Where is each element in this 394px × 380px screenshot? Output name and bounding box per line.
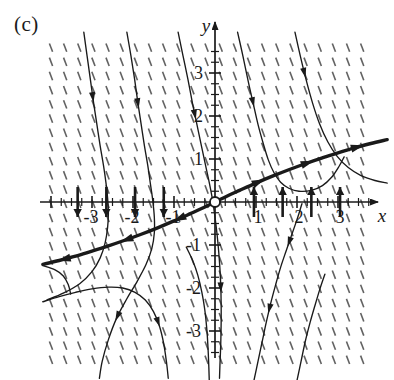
y-axis-label: y xyxy=(200,15,211,36)
direction-field-plot: -3-2-1123321-1-2-3xy xyxy=(0,0,394,380)
x-axis-label: x xyxy=(377,205,387,226)
direction-field-ticks xyxy=(49,43,363,364)
y-tick-label: 2 xyxy=(194,106,203,126)
solution-curve xyxy=(186,247,209,380)
x-tick-label: -3 xyxy=(84,207,99,227)
axes-lines xyxy=(40,22,378,358)
x-tick-label: 1 xyxy=(254,207,263,227)
y-tick-label: -2 xyxy=(186,278,201,298)
y-tick-label: -3 xyxy=(186,321,201,341)
figure-panel: (c) -3-2-1123321-1-2-3xy xyxy=(0,0,394,380)
x-tick-label: -1 xyxy=(166,207,181,227)
y-tick-label: 1 xyxy=(194,149,203,169)
equilibrium-point-marker xyxy=(210,197,220,207)
y-tick-label: -1 xyxy=(186,235,201,255)
x-tick-label: 2 xyxy=(295,207,304,227)
y-tick-label: 3 xyxy=(194,63,203,83)
solution-curve xyxy=(295,32,387,183)
x-tick-label: -2 xyxy=(125,207,140,227)
solution-curve xyxy=(43,266,71,294)
x-tick-label: 3 xyxy=(336,207,345,227)
